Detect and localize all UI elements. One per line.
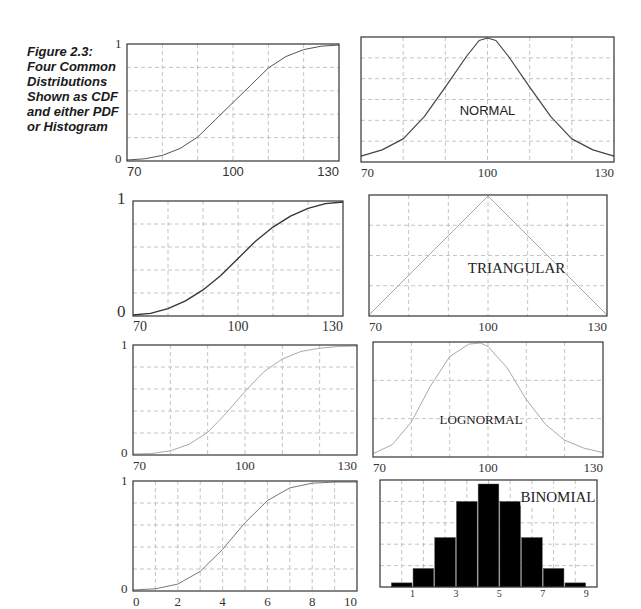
- x-tick-label: 5: [497, 588, 502, 599]
- y-tick-label: 0: [121, 445, 128, 461]
- y-tick-label: 1: [121, 337, 128, 353]
- histogram-bar: [543, 568, 564, 587]
- plot-area: [361, 37, 614, 162]
- plot-area: [373, 342, 603, 457]
- x-tick-label: 70: [361, 165, 374, 181]
- distribution-label: LOGNORMAL: [440, 412, 523, 428]
- x-tick-label: 100: [222, 164, 244, 179]
- y-tick-label: 0: [117, 302, 126, 322]
- x-tick-label: 130: [322, 319, 343, 335]
- x-tick-label: 100: [478, 165, 498, 181]
- x-tick-label: 70: [369, 319, 382, 335]
- x-tick-label: 100: [228, 319, 249, 335]
- x-tick-label: 2: [175, 594, 182, 609]
- x-tick-label: 9: [584, 588, 589, 599]
- y-tick-label: 0: [115, 151, 122, 167]
- x-tick-label: 130: [317, 164, 339, 179]
- x-tick-label: 130: [588, 319, 608, 335]
- histogram-bar: [391, 583, 412, 587]
- plot-area: [133, 481, 357, 591]
- x-tick-label: 70: [133, 458, 146, 474]
- x-tick-label: 6: [264, 594, 271, 609]
- x-tick-label: 0: [133, 594, 140, 609]
- plot-area: [133, 201, 343, 316]
- x-tick-label: 8: [309, 594, 316, 609]
- histogram-bar: [500, 502, 521, 587]
- chart-binomial-histogram: 13579BINOMIAL: [380, 480, 597, 587]
- x-tick-label: 130: [595, 165, 615, 181]
- chart-triangular-pdf: 70100130TRIANGULAR: [369, 195, 607, 316]
- chart-binomial-cdf: 024681001: [133, 481, 357, 591]
- x-tick-label: 10: [344, 594, 357, 609]
- histogram-bar: [413, 568, 434, 587]
- x-tick-label: 70: [133, 319, 147, 335]
- x-tick-label: 130: [338, 458, 358, 474]
- y-tick-label: 0: [121, 581, 128, 597]
- x-tick-label: 100: [478, 460, 498, 476]
- x-tick-label: 100: [235, 458, 255, 474]
- chart-lognormal-cdf: 7010013001: [133, 345, 357, 455]
- plot-area: [369, 195, 607, 316]
- x-tick-label: 7: [540, 588, 545, 599]
- histogram-bar: [565, 583, 586, 587]
- y-tick-label: 1: [117, 189, 126, 209]
- y-tick-label: 1: [115, 36, 122, 52]
- histogram-bar: [522, 538, 543, 587]
- x-tick-label: 3: [453, 588, 458, 599]
- distribution-label: TRIANGULAR: [468, 259, 566, 276]
- distribution-label: BINOMIAL: [520, 489, 595, 506]
- chart-normal-cdf: 7010013001: [127, 44, 339, 161]
- x-tick-label: 70: [373, 460, 386, 476]
- histogram-bar: [456, 502, 477, 587]
- plot-area: [127, 44, 339, 161]
- y-tick-label: 1: [121, 473, 128, 489]
- x-tick-label: 100: [478, 319, 498, 335]
- histogram-bar: [478, 484, 499, 587]
- x-tick-label: 1: [410, 588, 415, 599]
- chart-normal-pdf: 70100130NORMAL: [361, 37, 614, 162]
- histogram-bar: [435, 538, 456, 587]
- chart-lognormal-pdf: 70100130LOGNORMAL: [373, 342, 603, 457]
- x-tick-label: 4: [219, 594, 226, 609]
- chart-triangular-cdf: 7010013001: [133, 201, 343, 316]
- figure-caption: Figure 2.3: Four Common Distributions Sh…: [27, 44, 122, 134]
- x-tick-label: 70: [127, 164, 141, 179]
- distribution-label: NORMAL: [460, 102, 516, 117]
- plot-area: [133, 345, 357, 455]
- x-tick-label: 130: [584, 460, 604, 476]
